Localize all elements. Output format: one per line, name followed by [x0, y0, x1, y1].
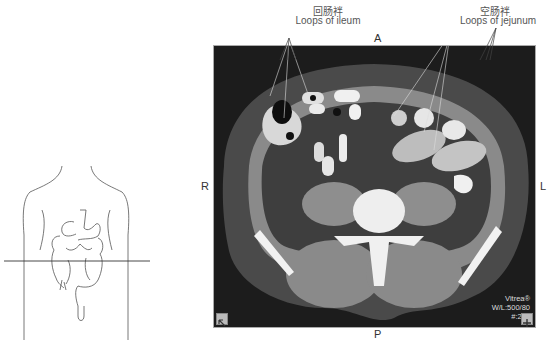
ct-scan-illustration: [214, 46, 535, 327]
orientation-posterior: P: [374, 328, 381, 340]
jejunum-label-en: Loops of jejunum: [448, 15, 548, 26]
cursor-arrow-button[interactable]: [216, 313, 228, 325]
orientation-right: R: [201, 180, 209, 192]
orientation-left: L: [540, 180, 546, 192]
ct-axial-image: Vitrea® W/L:500/80 #:255: [213, 45, 536, 328]
window-level-label: W/L:500/80: [492, 303, 530, 312]
ileum-label-en: Loops of ileum: [278, 15, 378, 26]
plus-button[interactable]: [521, 313, 533, 325]
vendor-label: Vitrea®: [505, 294, 530, 303]
plus-icon: [522, 318, 532, 328]
torso-with-intestines-illustration: [0, 140, 160, 343]
orientation-anterior: A: [374, 32, 381, 44]
body-diagram: [0, 140, 160, 343]
cursor-arrow-icon: [217, 318, 227, 328]
